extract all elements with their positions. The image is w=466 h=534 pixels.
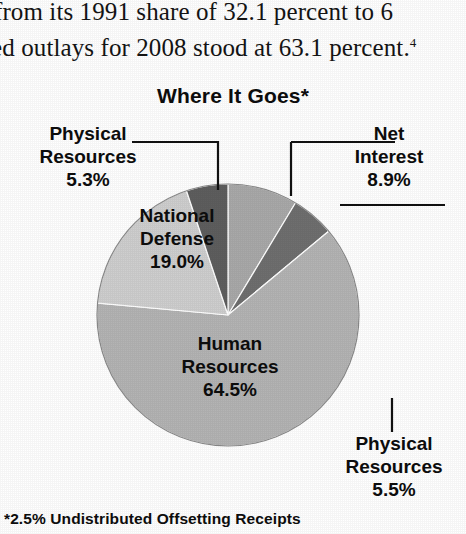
label-line-2: Resources <box>18 145 158 168</box>
label-value: 19.0% <box>102 250 252 273</box>
label-line-2: Resources <box>332 455 456 478</box>
label-value: 5.5% <box>332 478 456 501</box>
label-line-1: Net <box>330 122 448 145</box>
label-line-1: Human <box>140 332 320 355</box>
label-line-1: Physical <box>18 122 158 145</box>
label-value: 5.3% <box>18 168 158 191</box>
label-line-2: Defense <box>102 227 252 250</box>
label-physical-resources-right: Physical Resources 5.5% <box>332 432 456 501</box>
label-line-2: Interest <box>330 145 448 168</box>
label-national-defense: National Defense 19.0% <box>102 204 252 273</box>
label-value: 64.5% <box>140 378 320 401</box>
label-net-interest: Net Interest 8.9% <box>330 122 448 191</box>
label-value: 8.9% <box>330 168 448 191</box>
label-line-1: Physical <box>332 432 456 455</box>
label-line-2: Resources <box>140 355 320 378</box>
label-human-resources: Human Resources 64.5% <box>140 332 320 401</box>
chart-footnote: *2.5% Undistributed Offsetting Receipts <box>4 510 301 528</box>
figure-page: from its 1991 share of 32.1 percent to 6… <box>0 0 466 534</box>
label-line-1: National <box>102 204 252 227</box>
label-physical-resources-left: Physical Resources 5.3% <box>18 122 158 191</box>
